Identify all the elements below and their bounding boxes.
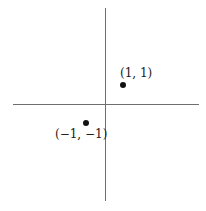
point-label-1-1: (1, 1)	[120, 67, 152, 79]
coordinate-plane: (1, 1) (−1, −1)	[0, 0, 206, 211]
point-1-1	[120, 82, 126, 88]
point-neg1-neg1	[83, 120, 89, 126]
y-axis	[105, 8, 106, 201]
point-label-neg1-neg1: (−1, −1)	[55, 128, 107, 140]
x-axis	[13, 104, 199, 105]
